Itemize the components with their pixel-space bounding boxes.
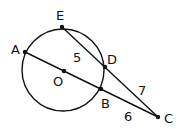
label-c: C xyxy=(164,111,173,126)
measure-bc: 6 xyxy=(124,109,132,124)
measure-ed: 5 xyxy=(73,50,81,65)
geometry-diagram: E A O D B C 5 7 6 xyxy=(0,0,179,129)
point-a xyxy=(23,50,27,54)
point-o xyxy=(62,69,66,73)
point-e xyxy=(60,25,64,29)
label-d: D xyxy=(107,52,117,67)
label-e: E xyxy=(56,8,64,23)
secant-e-c xyxy=(62,27,158,117)
measure-dc: 7 xyxy=(138,83,146,98)
label-a: A xyxy=(11,42,20,57)
label-b: B xyxy=(101,96,110,111)
point-b xyxy=(99,87,103,91)
point-c xyxy=(156,115,160,119)
label-o: O xyxy=(53,74,63,89)
